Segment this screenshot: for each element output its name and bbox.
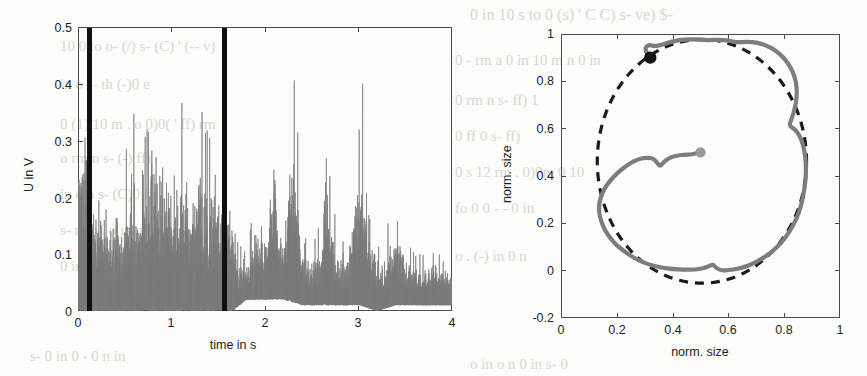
left-xtick-3: 3 [338, 316, 378, 330]
right-x-axis-title: norm. size [671, 345, 729, 359]
left-xtick-2: 2 [245, 316, 285, 330]
left-ytick-0.4: 0.4 [28, 78, 72, 92]
right-xtick-0.4: 0.4 [653, 323, 693, 337]
left-xtick-0: 0 [58, 316, 98, 330]
right-y-axis-title: norm. size [500, 145, 514, 203]
right-contour-canvas [561, 34, 840, 318]
left-x-axis-title: time in s [210, 338, 257, 352]
left-ytick-0.1: 0.1 [28, 248, 72, 262]
left-xtick-1: 1 [151, 316, 191, 330]
right-xtick-0.6: 0.6 [708, 323, 748, 337]
right-xtick-0.2: 0.2 [597, 323, 637, 337]
event-marker-line-1 [87, 28, 92, 311]
right-ytick-0.2: 0.2 [506, 216, 554, 230]
right-ytick-1: 1 [506, 27, 554, 41]
right-ytick-0.8: 0.8 [506, 74, 554, 88]
right-figure: 1 0.8 0.6 0.4 0.2 0 -0.2 norm. size 0 0.… [460, 0, 867, 376]
right-ytick-0.6: 0.6 [506, 122, 554, 136]
left-ytick-0.2: 0.2 [28, 192, 72, 206]
left-ytick-0.5: 0.5 [28, 21, 72, 35]
left-y-axis-title: U in V [22, 158, 36, 192]
left-ytick-0.3: 0.3 [28, 135, 72, 149]
right-ytick-0: 0 [506, 264, 554, 278]
left-signal-canvas [78, 27, 452, 311]
right-xtick-0: 0 [541, 323, 581, 337]
right-xtick-1: 1 [820, 323, 860, 337]
right-xtick-0.8: 0.8 [764, 323, 804, 337]
event-marker-line-2 [222, 28, 227, 311]
left-figure: 0.5 0.4 0.3 0.2 0.1 0 U in V 0 1 2 3 4 t… [0, 0, 460, 376]
